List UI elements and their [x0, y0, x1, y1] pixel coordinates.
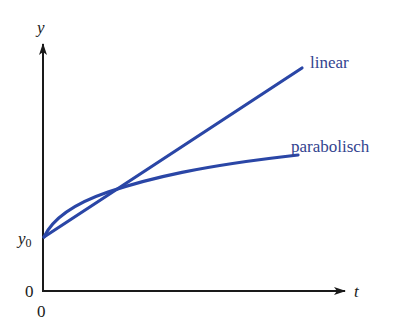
y0-label: y0	[16, 229, 32, 250]
x-axis-label: t	[354, 282, 360, 301]
linear-line	[44, 68, 302, 237]
y0-base: y	[16, 229, 26, 248]
parabolic-curve	[44, 155, 298, 237]
y-axis-label: y	[35, 18, 45, 37]
y0-subscript: 0	[26, 236, 32, 250]
chart-figure: y t 0 0 y0 linear parabolisch	[0, 0, 404, 330]
linear-label: linear	[310, 53, 349, 72]
x-tick-zero: 0	[37, 302, 46, 321]
y-tick-zero: 0	[25, 282, 34, 301]
parabolic-label: parabolisch	[291, 137, 370, 156]
